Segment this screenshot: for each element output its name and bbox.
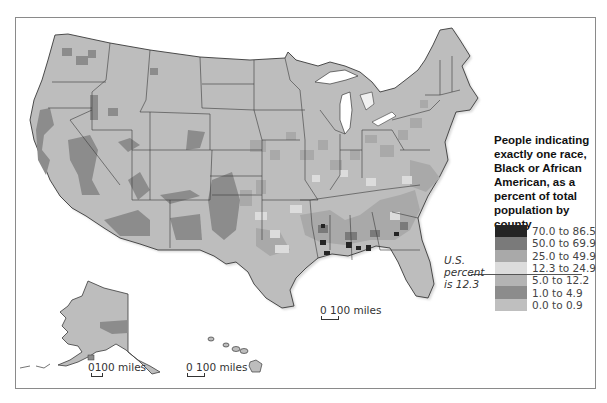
scale-bar-hawaii: 0 100 miles (186, 361, 247, 373)
scale-bar-alaska: 0100 miles (88, 361, 146, 373)
legend-swatch (495, 299, 527, 311)
us-percent-note: U.S. percent is 12.3 (444, 254, 484, 290)
scale-bar-line (321, 316, 339, 320)
legend-label: 12.3 to 24.9 (532, 262, 596, 274)
legend-item: 50.0 to 69.9 (495, 237, 596, 249)
legend: 70.0 to 86.5 50.0 to 69.9 25.0 to 49.9 1… (495, 225, 596, 311)
legend-swatch (495, 286, 527, 298)
scale-label: 100 miles (330, 304, 381, 316)
legend-label: 25.0 to 49.9 (532, 250, 596, 262)
legend-swatch (495, 225, 527, 237)
scale-zero: 0 (320, 304, 327, 316)
scale-zero: 0 (186, 361, 193, 373)
legend-title: People indicating exactly one race, Blac… (494, 133, 604, 231)
scale-bar-line (91, 373, 103, 377)
legend-title-line: Black or African (494, 161, 604, 175)
legend-item: 5.0 to 12.2 (495, 274, 596, 286)
legend-label: 0.0 to 0.9 (532, 299, 583, 311)
legend-item: 25.0 to 49.9 (495, 250, 596, 262)
legend-item: 12.3 to 24.9 (495, 262, 596, 274)
legend-label: 50.0 to 69.9 (532, 237, 596, 249)
legend-title-line: American, as a (494, 175, 604, 189)
scale-bar-line (187, 373, 205, 377)
legend-swatch (495, 262, 527, 274)
legend-item: 1.0 to 4.9 (495, 286, 596, 298)
scale-bar-conus: 0 100 miles (320, 304, 381, 316)
legend-title-line: People indicating (494, 133, 604, 147)
us-note-line: U.S. (444, 254, 484, 266)
legend-label: 70.0 to 86.5 (532, 225, 596, 237)
legend-label: 1.0 to 4.9 (532, 287, 583, 299)
us-percent-divider (471, 274, 582, 275)
legend-label: 5.0 to 12.2 (532, 274, 589, 286)
legend-title-line: percent of total (494, 189, 604, 203)
contiguous-us (30, 28, 480, 310)
scale-label: 100 miles (196, 361, 247, 373)
legend-item: 70.0 to 86.5 (495, 225, 596, 237)
us-note-line: is 12.3 (444, 278, 484, 290)
legend-title-line: exactly one race, (494, 147, 604, 161)
legend-swatch (495, 274, 527, 286)
legend-swatch (495, 237, 527, 249)
us-note-line: percent (444, 266, 484, 278)
scale-label: 100 miles (95, 361, 146, 373)
legend-swatch (495, 250, 527, 262)
legend-title-line: population by (494, 203, 604, 217)
legend-item: 0.0 to 0.9 (495, 299, 596, 311)
scale-zero: 0 (88, 361, 95, 373)
